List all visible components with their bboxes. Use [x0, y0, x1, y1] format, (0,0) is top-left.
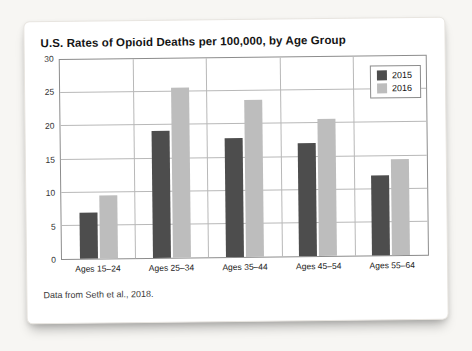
bar-2015 — [79, 213, 98, 259]
bar-2016 — [391, 160, 410, 256]
y-axis: 302520151050 — [39, 59, 61, 260]
bar-group — [279, 57, 354, 257]
bar-group — [206, 58, 281, 258]
legend: 20152016 — [370, 65, 421, 99]
x-category-label: Ages 45–54 — [282, 261, 356, 272]
legend-item: 2015 — [377, 70, 412, 80]
y-tick-label: 15 — [45, 155, 55, 164]
y-tick-label: 0 — [51, 256, 56, 265]
bar-2016 — [244, 99, 264, 256]
legend-swatch — [377, 83, 387, 93]
y-tick-label: 30 — [44, 55, 54, 64]
source-caption: Data from Seth et al., 2018. — [43, 286, 429, 300]
bar-group — [133, 58, 208, 258]
legend-label: 2016 — [392, 83, 412, 92]
plot-wrapper: 20152016 Ages 15–24Ages 25–34Ages 35–44A… — [59, 55, 429, 274]
bar-2015 — [371, 175, 390, 255]
legend-swatch — [377, 70, 387, 80]
chart-title: U.S. Rates of Opioid Deaths per 100,000,… — [40, 33, 426, 49]
figure-card: U.S. Rates of Opioid Deaths per 100,000,… — [23, 17, 448, 325]
y-tick-label: 10 — [46, 189, 56, 198]
page-background: U.S. Rates of Opioid Deaths per 100,000,… — [0, 0, 472, 351]
bar-2015 — [298, 143, 317, 256]
bar-2016 — [99, 195, 118, 258]
bar-2015 — [225, 138, 244, 258]
legend-item: 2016 — [377, 83, 412, 93]
y-tick-label: 5 — [51, 222, 56, 231]
bar-2016 — [318, 119, 338, 256]
bar-2016 — [171, 88, 191, 258]
bar-group — [60, 59, 135, 259]
bar-2015 — [151, 131, 170, 258]
x-axis-labels: Ages 15–24Ages 25–34Ages 35–44Ages 45–54… — [61, 260, 429, 274]
bar-chart: 302520151050 20152016 Ages 15–24Ages 25–… — [39, 55, 429, 274]
plot-area: 20152016 — [59, 55, 429, 260]
legend-label: 2015 — [392, 70, 412, 79]
y-tick-label: 25 — [45, 88, 55, 97]
x-category-label: Ages 35–44 — [208, 261, 282, 272]
x-category-label: Ages 25–34 — [135, 262, 209, 273]
x-category-label: Ages 15–24 — [61, 263, 135, 274]
x-category-label: Ages 55–64 — [355, 260, 429, 271]
y-tick-label: 20 — [45, 122, 55, 131]
